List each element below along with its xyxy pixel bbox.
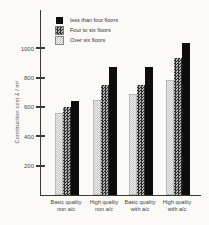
legend-label: Four to six floors xyxy=(70,27,111,33)
y-axis-tick xyxy=(36,106,45,108)
legend-swatch-dark-check xyxy=(56,27,63,34)
legend-item: Four to six floors xyxy=(56,25,118,35)
bar-dark-check xyxy=(101,85,109,195)
bar-solid-black xyxy=(109,67,117,195)
legend-label: Over six floors xyxy=(70,37,105,43)
legend: less than four floorsFour to six floorsO… xyxy=(56,15,118,45)
y-axis-title: Construction cost £ / m² xyxy=(14,81,20,144)
legend-item: less than four floors xyxy=(56,15,118,25)
y-axis-tick xyxy=(36,77,45,79)
x-category-label: High qualitywith a/c xyxy=(154,199,200,212)
legend-swatch-light-stipple xyxy=(56,37,63,44)
bar-solid-black xyxy=(145,67,153,195)
bar-light-stipple xyxy=(55,113,63,195)
y-tick-label: 800 xyxy=(24,75,34,81)
y-tick-label: 400 xyxy=(24,134,34,140)
legend-item: Over six floors xyxy=(56,35,118,45)
bar-solid-black xyxy=(71,101,79,195)
bar-solid-black xyxy=(182,43,190,195)
y-axis-tick xyxy=(36,47,45,49)
y-axis-tick xyxy=(36,135,45,137)
y-axis-tick xyxy=(36,165,45,167)
bar-dark-check xyxy=(63,107,71,195)
y-tick-label: 1000 xyxy=(21,46,34,52)
legend-label: less than four floors xyxy=(70,17,118,23)
y-tick-label: 200 xyxy=(24,163,34,169)
bar-dark-check xyxy=(137,85,145,195)
figure: Construction cost £ / m² 200400600800100… xyxy=(0,0,209,225)
bar-dark-check xyxy=(174,58,182,195)
legend-swatch-solid-black xyxy=(56,17,63,24)
bar-light-stipple xyxy=(93,100,101,195)
bar-light-stipple xyxy=(166,80,174,195)
bar-light-stipple xyxy=(129,94,137,195)
y-tick-label: 600 xyxy=(24,104,34,110)
